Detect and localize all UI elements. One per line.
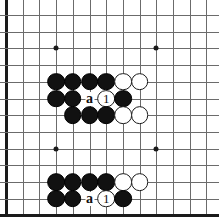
go-board-diagram: 11 aa	[0, 0, 219, 219]
point-labels: aa	[0, 0, 219, 219]
point-label-a: a	[85, 192, 94, 206]
point-label-a: a	[85, 92, 94, 106]
